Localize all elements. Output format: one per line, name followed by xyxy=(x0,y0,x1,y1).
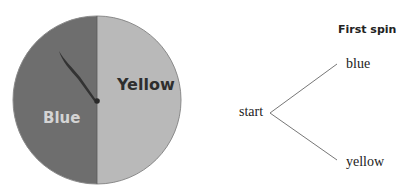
tree-branch-blue xyxy=(270,64,337,113)
tree-root-label: start xyxy=(239,104,263,119)
tree-branch-yellow xyxy=(270,113,337,160)
spinner-pivot xyxy=(94,98,100,104)
spinner-label-yellow: Yellow xyxy=(116,75,175,94)
tree-leaf-yellow: yellow xyxy=(346,154,385,169)
spinner: Yellow Blue xyxy=(13,16,181,184)
tree-diagram: First spin start blue yellow xyxy=(239,23,396,169)
spinner-section-yellow xyxy=(97,16,181,184)
probability-diagram: Yellow Blue First spin start blue yellow xyxy=(0,0,413,194)
tree-header: First spin xyxy=(338,23,396,36)
tree-leaf-blue: blue xyxy=(346,56,370,71)
spinner-label-blue: Blue xyxy=(43,109,80,127)
spinner-section-blue xyxy=(13,16,97,184)
